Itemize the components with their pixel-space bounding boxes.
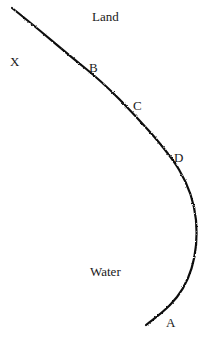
point-x-label: X (10, 55, 19, 68)
point-a-label: A (166, 316, 175, 329)
point-c-label: C (133, 99, 142, 112)
point-b-label: B (89, 61, 98, 74)
shoreline-diagram (0, 0, 214, 351)
land-label: Land (92, 10, 119, 23)
point-d-label: D (174, 151, 183, 164)
water-label: Water (90, 265, 121, 278)
